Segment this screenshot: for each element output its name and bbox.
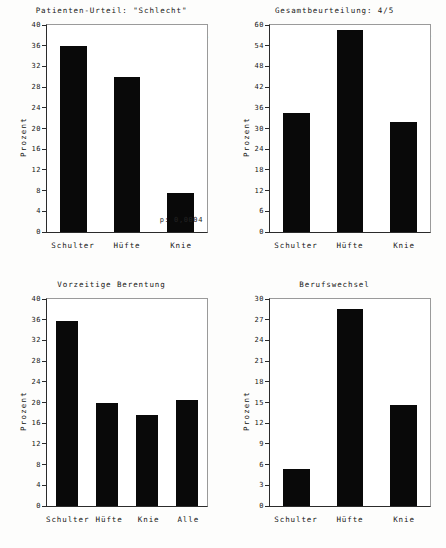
y-axis-tick: 4 xyxy=(24,481,47,489)
y-axis-tick-label: 6 xyxy=(247,207,264,215)
plot-area: p: 0,0004 0481216202428323640 xyxy=(46,24,208,233)
y-axis-tick: 12 xyxy=(24,166,47,174)
y-axis-tick-label: 30 xyxy=(247,295,264,303)
y-axis-tick-label: 24 xyxy=(247,145,264,153)
y-axis-tick-label: 54 xyxy=(247,42,264,50)
y-axis-tick-label: 12 xyxy=(247,419,264,427)
x-axis-tick-label: Hüfte xyxy=(323,241,377,250)
bar xyxy=(167,193,193,232)
y-axis-tick-label: 36 xyxy=(24,316,41,324)
y-axis-tick: 21 xyxy=(247,357,270,365)
y-axis-tick-label: 28 xyxy=(24,357,41,365)
bar-series xyxy=(270,25,430,232)
y-axis-tick-mark xyxy=(265,211,270,212)
y-axis-tick-mark xyxy=(42,128,47,129)
y-axis-tick-label: 42 xyxy=(247,83,264,91)
y-axis-tick-label: 9 xyxy=(247,440,264,448)
y-axis-tick-mark xyxy=(42,66,47,67)
y-axis-tick: 0 xyxy=(247,502,270,510)
y-axis-tick-mark xyxy=(42,340,47,341)
y-axis-tick: 54 xyxy=(247,42,270,50)
y-axis-tick-mark xyxy=(265,402,270,403)
y-axis-tick-mark xyxy=(42,25,47,26)
y-axis-tick: 36 xyxy=(24,316,47,324)
y-axis-tick-label: 20 xyxy=(24,125,41,133)
y-axis-tick-mark xyxy=(265,464,270,465)
bar-series xyxy=(47,299,207,506)
bar xyxy=(390,405,416,506)
x-axis-labels: SchulterHüfteKnie xyxy=(46,241,208,250)
y-axis-tick-label: 40 xyxy=(24,295,41,303)
y-axis-tick: 0 xyxy=(24,502,47,510)
plot-area: 036912151821242730 xyxy=(269,298,431,507)
chart-panel-4-c: Vorzeitige Berentung 4-C Prozent 0481216… xyxy=(0,274,223,548)
bar xyxy=(96,403,118,507)
y-axis-tick: 4 xyxy=(24,207,47,215)
y-axis-tick-mark xyxy=(265,506,270,507)
y-axis-tick: 18 xyxy=(247,166,270,174)
y-axis-tick-mark xyxy=(265,319,270,320)
chart-title: Gesamtbeurteilung: 4/5 xyxy=(223,6,446,15)
figure-panel-grid: Patienten-Urteil: "Schlecht" 4-A Prozent… xyxy=(0,0,446,548)
bar xyxy=(60,46,86,232)
y-axis-tick-label: 27 xyxy=(247,316,264,324)
p-value-annotation: p: 0,0004 xyxy=(160,216,203,224)
y-axis-tick-label: 12 xyxy=(24,440,41,448)
y-axis-tick-mark xyxy=(265,66,270,67)
y-axis-tick-label: 60 xyxy=(247,21,264,29)
y-axis-tick: 24 xyxy=(24,104,47,112)
y-axis-tick-label: 8 xyxy=(24,461,41,469)
bar xyxy=(136,415,158,506)
bar xyxy=(176,400,198,506)
y-axis-tick-label: 0 xyxy=(24,228,41,236)
bar xyxy=(337,309,363,506)
x-axis-tick-label: Alle xyxy=(168,515,208,524)
y-axis-tick-mark xyxy=(265,381,270,382)
y-axis-tick-label: 16 xyxy=(24,145,41,153)
y-axis-tick-label: 24 xyxy=(24,378,41,386)
y-axis-tick-label: 30 xyxy=(247,125,264,133)
y-axis-tick-mark xyxy=(265,361,270,362)
y-axis-tick-label: 18 xyxy=(247,166,264,174)
y-axis-tick-label: 24 xyxy=(24,104,41,112)
y-axis-tick-label: 32 xyxy=(24,62,41,70)
y-axis-tick-mark xyxy=(42,319,47,320)
y-axis-tick-mark xyxy=(42,485,47,486)
y-axis-tick: 0 xyxy=(24,228,47,236)
y-axis-tick-mark xyxy=(42,211,47,212)
chart-title: Patienten-Urteil: "Schlecht" xyxy=(0,6,223,15)
y-axis-tick-mark xyxy=(265,299,270,300)
bar xyxy=(390,122,416,232)
chart-title: Vorzeitige Berentung xyxy=(0,280,223,289)
y-axis-tick-label: 4 xyxy=(24,481,41,489)
chart-title: Berufswechsel xyxy=(223,280,446,289)
x-axis-tick-label: Schulter xyxy=(46,515,89,524)
y-axis-tick: 20 xyxy=(24,399,47,407)
y-axis-tick-mark xyxy=(42,190,47,191)
y-axis-tick-label: 12 xyxy=(247,187,264,195)
y-axis-tick-mark xyxy=(42,169,47,170)
y-axis-tick-label: 36 xyxy=(247,104,264,112)
y-axis-tick: 28 xyxy=(24,357,47,365)
bar xyxy=(283,469,309,506)
y-axis-tick-label: 15 xyxy=(247,399,264,407)
y-axis-tick-label: 8 xyxy=(24,187,41,195)
y-axis-tick: 12 xyxy=(24,440,47,448)
y-axis-tick-mark xyxy=(265,190,270,191)
y-axis-tick-mark xyxy=(265,340,270,341)
y-axis-tick-mark xyxy=(42,506,47,507)
y-axis-tick: 24 xyxy=(247,145,270,153)
y-axis-tick-mark xyxy=(42,107,47,108)
y-axis-tick-mark xyxy=(42,402,47,403)
y-axis-tick: 24 xyxy=(24,378,47,386)
bar xyxy=(283,113,309,232)
y-axis-tick-mark xyxy=(265,107,270,108)
y-axis-tick-label: 0 xyxy=(24,502,41,510)
y-axis-tick-label: 16 xyxy=(24,419,41,427)
y-axis-tick-mark xyxy=(42,464,47,465)
x-axis-labels: SchulterHüfteKnie xyxy=(269,241,431,250)
y-axis-tick: 16 xyxy=(24,419,47,427)
x-axis-tick-label: Schulter xyxy=(269,515,323,524)
y-axis-tick: 24 xyxy=(247,336,270,344)
y-axis-tick-mark xyxy=(265,25,270,26)
